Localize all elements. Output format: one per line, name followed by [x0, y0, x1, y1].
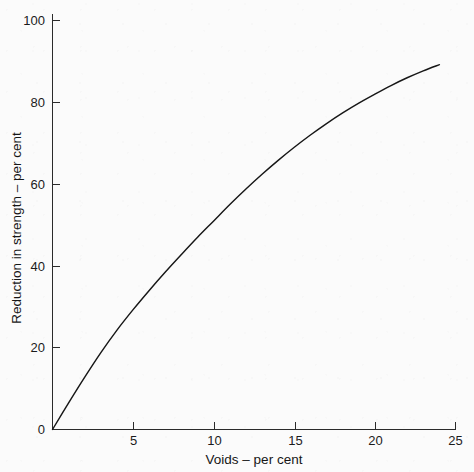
y-tick-label-100: 100 [23, 13, 45, 28]
data-curve-reduction-in-strength [53, 65, 440, 430]
y-tick-label-40: 40 [31, 259, 45, 274]
y-tick-marks [53, 21, 60, 348]
x-tick-label-15: 15 [288, 433, 302, 448]
x-tick-label-5: 5 [130, 433, 137, 448]
x-tick-labels: 5 10 15 20 25 [130, 433, 463, 448]
figure-container: 100 80 60 40 20 0 5 10 15 20 25 Voids – … [0, 0, 474, 472]
x-tick-label-25: 25 [448, 433, 462, 448]
y-tick-label-0: 0 [38, 422, 45, 437]
x-tick-label-20: 20 [368, 433, 382, 448]
chart-plot: 100 80 60 40 20 0 5 10 15 20 25 Voids – … [0, 0, 474, 472]
y-tick-labels: 100 80 60 40 20 0 [23, 13, 45, 437]
y-tick-label-80: 80 [31, 95, 45, 110]
y-tick-label-20: 20 [31, 340, 45, 355]
x-tick-label-10: 10 [207, 433, 221, 448]
x-tick-marks [134, 422, 456, 429]
x-axis-title: Voids – per cent [206, 452, 303, 467]
y-tick-label-60: 60 [31, 177, 45, 192]
y-axis-title: Reduction in strength – per cent [9, 132, 24, 324]
